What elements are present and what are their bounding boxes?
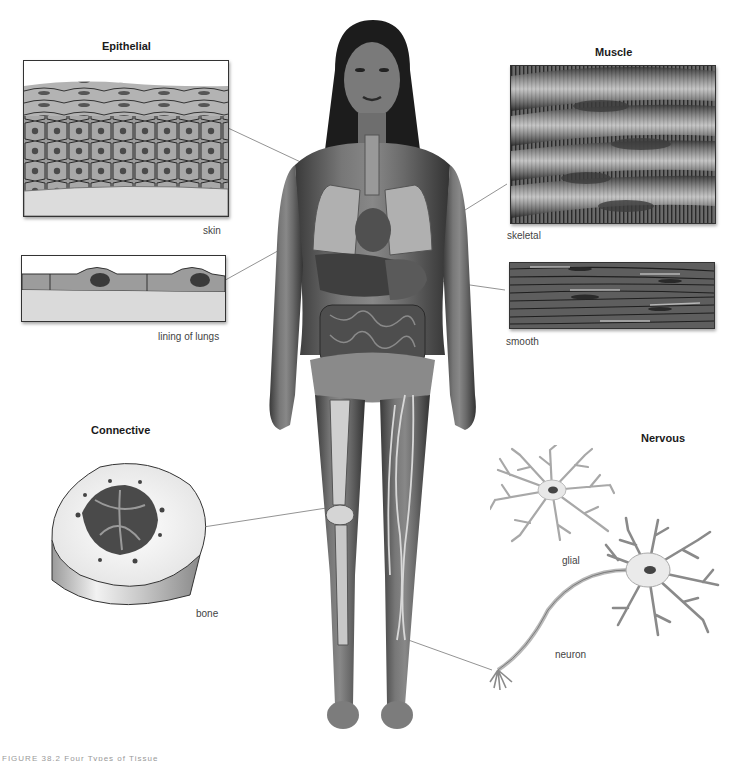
- bone-tissue-image: [40, 455, 215, 615]
- skin-tissue-image: [23, 60, 229, 217]
- neuron-label: neuron: [555, 649, 586, 660]
- skeletal-muscle-image: [510, 65, 716, 224]
- human-body-illustration: [255, 15, 485, 740]
- epithelial-title: Epithelial: [102, 40, 151, 52]
- smooth-label: smooth: [506, 336, 539, 347]
- lung-lining-label: lining of lungs: [158, 331, 219, 342]
- smooth-muscle-image: [509, 262, 715, 329]
- bone-label: bone: [196, 608, 218, 619]
- figure-caption: FIGURE 38.2 Four Types of Tissue: [2, 754, 158, 761]
- skeletal-label: skeletal: [507, 230, 541, 241]
- neuron-cell-image: [488, 510, 728, 700]
- nervous-title: Nervous: [641, 432, 685, 444]
- lung-lining-tissue-image: [21, 255, 226, 322]
- muscle-title: Muscle: [595, 46, 632, 58]
- skin-label: skin: [203, 225, 221, 236]
- connective-title: Connective: [91, 424, 150, 436]
